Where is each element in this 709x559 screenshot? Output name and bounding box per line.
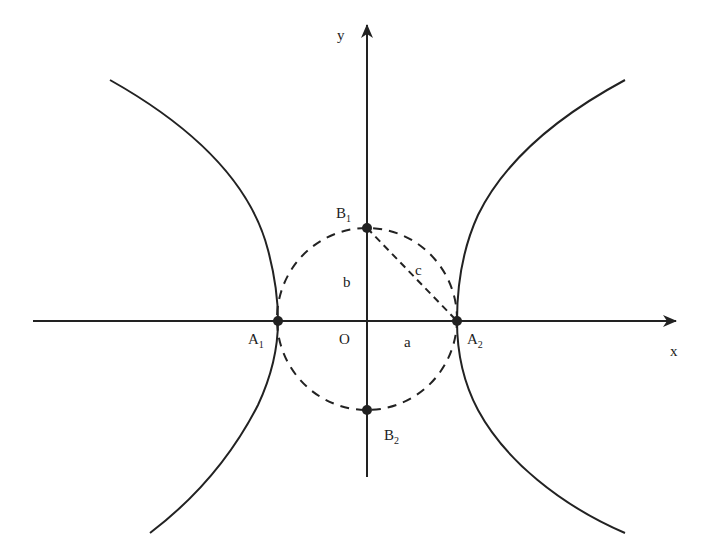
origin-label: O <box>339 331 350 347</box>
hyperbola-diagram: y x O a b c A1 A2 B1 B2 <box>0 0 709 559</box>
y-axis-label: y <box>337 27 345 43</box>
label-a1: A1 <box>248 331 264 350</box>
label-c: c <box>415 262 422 278</box>
x-axis-label: x <box>670 343 678 359</box>
hyperbola-left-branch <box>110 80 278 533</box>
label-a: a <box>404 334 411 350</box>
label-b: b <box>343 274 351 290</box>
point-a1 <box>273 316 283 326</box>
hyperbola-right-branch <box>457 80 625 533</box>
point-b2 <box>362 405 372 415</box>
point-b1 <box>362 223 372 233</box>
segment-c <box>367 228 457 321</box>
label-b2: B2 <box>384 427 399 446</box>
point-a2 <box>452 316 462 326</box>
label-b1: B1 <box>336 205 351 224</box>
label-a2: A2 <box>467 331 483 350</box>
